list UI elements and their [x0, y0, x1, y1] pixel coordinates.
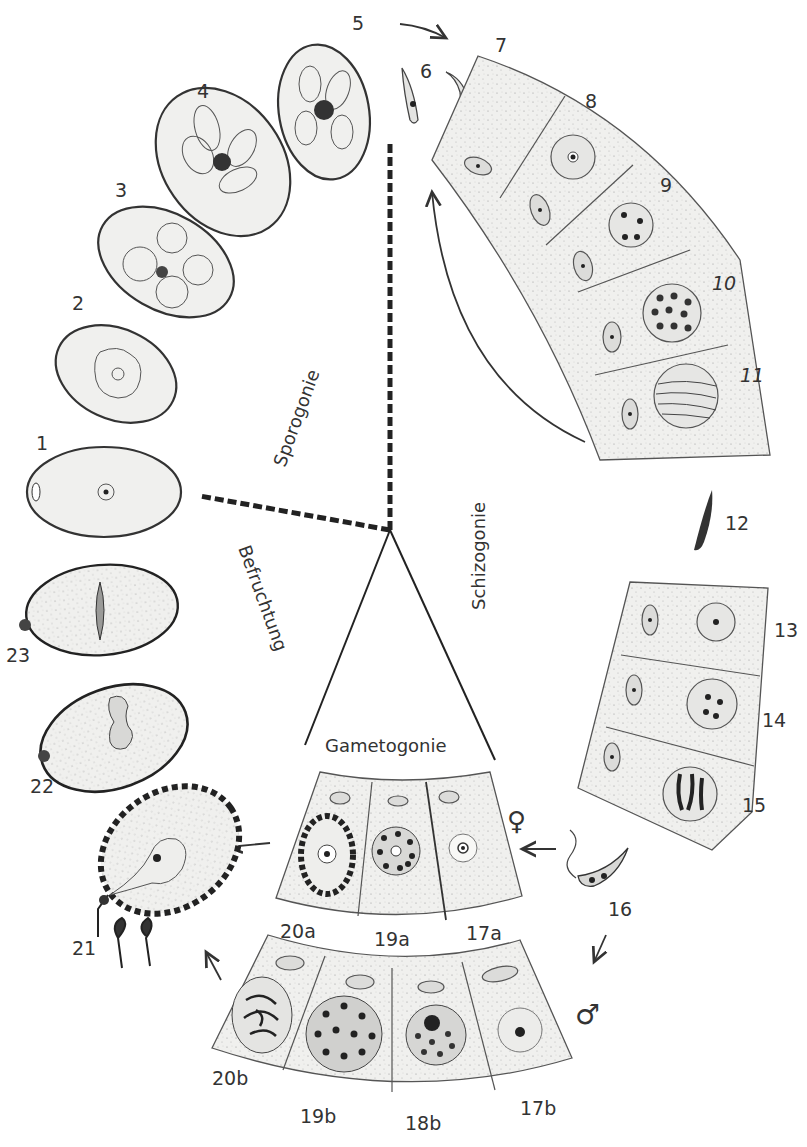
microgametogony-row — [212, 935, 572, 1092]
stage-label-12: 12 — [725, 512, 749, 534]
stage-label-19b: 19b — [300, 1105, 336, 1127]
stage-label-17a: 17a — [466, 922, 502, 944]
stage-label-10: 10 — [712, 272, 736, 294]
stage-label-16: 16 — [608, 898, 632, 920]
stage-label-9: 9 — [660, 174, 672, 196]
oocyst-stage-1 — [27, 447, 181, 537]
stage-label-5: 5 — [352, 12, 364, 34]
oocyst-stage-2 — [40, 307, 192, 442]
stage-label-23: 23 — [6, 644, 30, 666]
male-symbol: ♂ — [575, 998, 600, 1031]
macrogametogony-row — [276, 772, 522, 920]
stage-label-14: 14 — [762, 709, 786, 731]
stage-label-8: 8 — [585, 90, 597, 112]
schizogony-second-generation — [578, 582, 768, 850]
female-symbol: ♀ — [507, 806, 526, 836]
zygote-stage-23 — [19, 559, 182, 662]
stage-label-15: 15 — [742, 794, 766, 816]
phase-label-sporogonie: Sporogonie — [269, 367, 324, 470]
phase-label-schizogonie: Schizogonie — [468, 502, 489, 610]
stage-label-1: 1 — [36, 432, 48, 454]
stage-label-17b: 17b — [520, 1097, 556, 1119]
life-cycle-diagram: Sporogonie Schizogonie Befruchtung Gamet… — [0, 0, 807, 1147]
arrow-20b-to-21 — [206, 952, 221, 980]
stage-label-19a: 19a — [374, 928, 410, 950]
arrow-5-to-7 — [400, 24, 446, 38]
arrow-16-to-male — [594, 935, 606, 962]
stage-label-7: 7 — [495, 34, 507, 56]
merozoite-stage-12 — [694, 490, 712, 550]
stage-label-20b: 20b — [212, 1067, 248, 1089]
phase-label-gametogonie: Gametogonie — [325, 735, 447, 756]
stage-label-20a: 20a — [280, 920, 316, 942]
phase-label-befruchtung: Befruchtung — [234, 542, 292, 654]
stage-label-2: 2 — [72, 292, 84, 314]
stage-label-6: 6 — [420, 60, 432, 82]
stage-label-13: 13 — [774, 619, 798, 641]
stage-label-11: 11 — [740, 364, 764, 386]
stage-label-3: 3 — [115, 179, 127, 201]
stage-label-21: 21 — [72, 937, 96, 959]
merozoite-stage-16 — [567, 830, 628, 886]
stage-label-4: 4 — [197, 80, 209, 102]
stage-label-18b: 18b — [405, 1112, 441, 1134]
schizogony-epithelium — [432, 56, 770, 460]
stage-label-22: 22 — [30, 775, 54, 797]
